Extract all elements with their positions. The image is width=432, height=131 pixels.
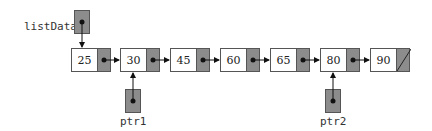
- arrows-layer: [0, 0, 432, 131]
